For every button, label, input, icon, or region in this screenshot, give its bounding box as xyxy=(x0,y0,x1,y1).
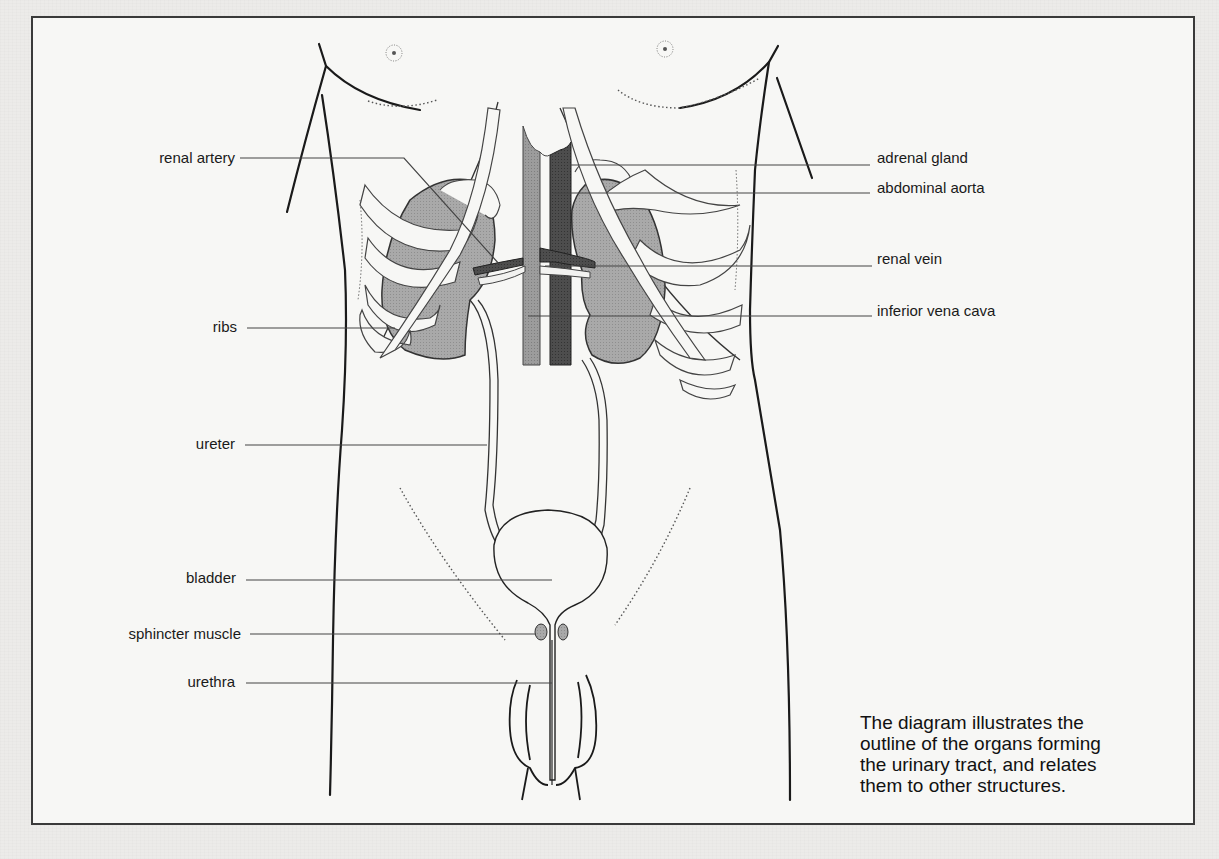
label-bladder: bladder xyxy=(186,570,236,585)
label-ribs: ribs xyxy=(213,319,237,334)
caption-line-2: outline of the organs forming xyxy=(860,733,1160,754)
major-vessels xyxy=(523,126,571,365)
label-renal-vein: renal vein xyxy=(877,251,942,266)
label-sphincter-muscle: sphincter muscle xyxy=(128,626,241,641)
diagram-caption: The diagram illustrates the outline of t… xyxy=(860,712,1160,796)
nipple-icons xyxy=(386,41,673,61)
caption-line-4: them to other structures. xyxy=(860,775,1160,796)
label-renal-artery: renal artery xyxy=(159,150,235,165)
label-ureter: ureter xyxy=(196,436,235,451)
label-urethra: urethra xyxy=(187,674,235,689)
caption-line-1: The diagram illustrates the xyxy=(860,712,1160,733)
label-adrenal-gland: adrenal gland xyxy=(877,150,968,165)
label-abdominal-aorta: abdominal aorta xyxy=(877,180,985,195)
caption-line-3: the urinary tract, and relates xyxy=(860,754,1160,775)
label-inferior-vena-cava: inferior vena cava xyxy=(877,303,995,318)
bladder xyxy=(494,510,607,785)
